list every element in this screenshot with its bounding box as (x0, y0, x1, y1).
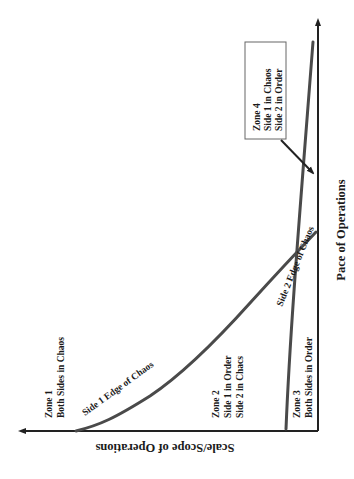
zone3-title: Zone 3 (292, 390, 302, 418)
zone2-line1: Side 1 in Order (223, 355, 233, 418)
zone4-title: Zone 4 (252, 103, 262, 131)
x-axis-title: Scale/Scope of Operations (95, 441, 234, 455)
y-axis-title: Pace of Operations (334, 179, 348, 281)
zone3-line1: Both Sides in Order (304, 336, 314, 418)
side1-edge-curve (76, 232, 316, 431)
zone4-line1: Side 1 in Chaos (263, 68, 273, 131)
side2-edge-label: Side 2 Edge of Chaos (275, 224, 316, 307)
diagram-canvas: Zone 4 Side 1 in Chaos Side 2 in Order Z… (0, 0, 354, 479)
zone1-title: Zone 1 (44, 390, 54, 418)
side1-edge-label: Side 1 Edge of Chaos (80, 359, 155, 418)
zone2-title: Zone 2 (211, 390, 221, 418)
zone4-line2: Side 2 in Order (274, 68, 284, 131)
zone1-line1: Both Sides in Chaos (56, 337, 66, 418)
zone4-callout-arrow (281, 140, 313, 173)
zone2-line2: Side 2 in Chacs (235, 356, 245, 418)
